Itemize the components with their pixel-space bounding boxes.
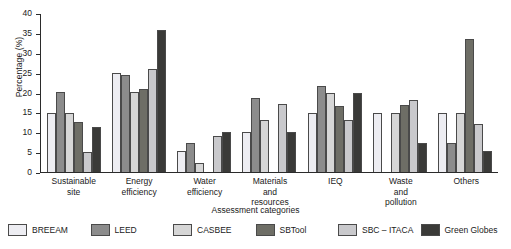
legend-label: CASBEE	[197, 225, 232, 235]
legend-item[interactable]: SBTool	[256, 224, 339, 236]
x-axis-line	[40, 172, 498, 173]
y-axis-tick-label: 5	[27, 147, 32, 157]
bar[interactable]	[112, 73, 121, 172]
x-axis-tick-label: Waste and pollution	[368, 176, 433, 208]
bar[interactable]	[251, 98, 260, 172]
bar-slot	[353, 14, 362, 172]
y-axis-tick: 5	[36, 153, 40, 154]
bar[interactable]	[222, 132, 231, 172]
bar-slot	[130, 14, 139, 172]
y-axis-tick: 35	[36, 34, 40, 35]
bar[interactable]	[195, 163, 204, 172]
bar[interactable]	[465, 39, 474, 172]
y-axis-tick: 40	[36, 14, 40, 15]
bar-slot	[251, 14, 260, 172]
legend-swatch-icon	[256, 224, 275, 236]
bar-slot	[121, 14, 130, 172]
bar-slot	[317, 14, 326, 172]
bar-slot	[177, 14, 186, 172]
legend-label: BREEAM	[32, 225, 68, 235]
bar[interactable]	[308, 113, 317, 172]
bar-slot	[65, 14, 74, 172]
x-axis-title: Assessment categories	[0, 205, 511, 215]
x-axis-tick-label: Water efficiency	[172, 176, 237, 208]
plot-area: 0510152025303540	[40, 14, 498, 173]
bar[interactable]	[157, 30, 166, 172]
bar[interactable]	[344, 120, 353, 172]
bar[interactable]	[47, 113, 56, 172]
y-axis-tick-label: 40	[23, 8, 32, 18]
legend-label: LEED	[115, 225, 137, 235]
bar-slot	[465, 14, 474, 172]
y-axis-tick: 0	[36, 173, 40, 174]
bar-slot	[335, 14, 344, 172]
bar[interactable]	[148, 69, 157, 172]
bar[interactable]	[278, 104, 287, 172]
legend-swatch-icon	[8, 224, 27, 236]
bar[interactable]	[391, 113, 400, 172]
bar[interactable]	[92, 127, 101, 172]
bar-slot	[112, 14, 121, 172]
bar[interactable]	[130, 92, 139, 172]
bar-slot	[308, 14, 317, 172]
bar-slot	[456, 14, 465, 172]
bar[interactable]	[326, 93, 335, 172]
bar[interactable]	[83, 152, 92, 172]
legend-item[interactable]: SBC – ITACA	[338, 224, 421, 236]
bar-slot	[344, 14, 353, 172]
bar[interactable]	[373, 113, 382, 172]
bar-slot	[483, 14, 492, 172]
legend-item[interactable]: Green Globes	[421, 224, 504, 236]
bar[interactable]	[177, 151, 186, 172]
y-axis-tick: 30	[36, 54, 40, 55]
bar[interactable]	[474, 124, 483, 172]
legend-item[interactable]: LEED	[91, 224, 174, 236]
bar[interactable]	[438, 113, 447, 172]
bar[interactable]	[121, 75, 130, 172]
bar-group	[172, 14, 237, 172]
bar-slot	[92, 14, 101, 172]
bar[interactable]	[456, 113, 465, 172]
bar[interactable]	[186, 143, 195, 172]
x-axis-tick-label: Sustainable site	[41, 176, 106, 208]
bar[interactable]	[242, 132, 251, 172]
bar[interactable]	[409, 100, 418, 172]
legend-item[interactable]: CASBEE	[173, 224, 256, 236]
bar[interactable]	[213, 136, 222, 172]
bar-slot	[83, 14, 92, 172]
bar[interactable]	[74, 122, 83, 172]
legend-item[interactable]: BREEAM	[8, 224, 91, 236]
bar-slot	[213, 14, 222, 172]
bar[interactable]	[447, 143, 456, 172]
bar-slot	[287, 14, 296, 172]
bar-group	[41, 14, 106, 172]
bar-slot	[438, 14, 447, 172]
bar[interactable]	[400, 105, 409, 172]
bar[interactable]	[56, 92, 65, 172]
bar[interactable]	[483, 151, 492, 172]
bar-slot	[139, 14, 148, 172]
bar-slot	[382, 14, 391, 172]
bar[interactable]	[260, 120, 269, 172]
bar-group	[433, 14, 498, 172]
y-axis-tick-label: 10	[23, 127, 32, 137]
bar-slot	[148, 14, 157, 172]
y-axis-tick-label: 15	[23, 107, 32, 117]
bar[interactable]	[287, 132, 296, 172]
bar-slot	[278, 14, 287, 172]
y-axis-tick-label: 30	[23, 48, 32, 58]
bar[interactable]	[335, 106, 344, 172]
bar[interactable]	[139, 89, 148, 172]
y-axis-tick: 20	[36, 94, 40, 95]
legend-swatch-icon	[91, 224, 110, 236]
bar-slot	[474, 14, 483, 172]
bar[interactable]	[317, 86, 326, 172]
y-axis-tick-label: 35	[23, 28, 32, 38]
bar[interactable]	[353, 93, 362, 172]
bar-slot	[400, 14, 409, 172]
bar-slot	[186, 14, 195, 172]
legend-swatch-icon	[173, 224, 192, 236]
legend-label: SBC – ITACA	[362, 225, 413, 235]
bar[interactable]	[418, 143, 427, 172]
bar[interactable]	[65, 113, 74, 172]
